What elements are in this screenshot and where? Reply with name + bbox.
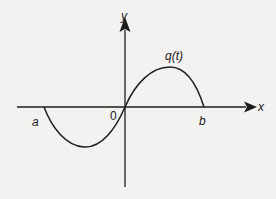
point-a-label: a	[32, 116, 39, 128]
diagram-canvas: y x q(t) a 0 b	[0, 0, 276, 199]
origin-label: 0	[110, 110, 117, 122]
x-axis-label: x	[258, 101, 264, 113]
graph-svg	[0, 0, 276, 199]
point-b-label: b	[199, 115, 206, 127]
y-axis-label: y	[121, 10, 127, 22]
function-label: q(t)	[165, 50, 183, 62]
